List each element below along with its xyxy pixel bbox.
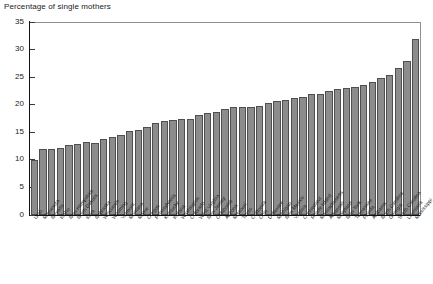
bar [152, 123, 159, 215]
bar [48, 149, 55, 215]
bar [351, 87, 358, 215]
bar [360, 85, 367, 215]
bar [377, 78, 384, 215]
bar [325, 91, 332, 215]
bar [273, 101, 280, 215]
bar [117, 135, 124, 216]
bar [57, 148, 64, 215]
bars-group [30, 22, 420, 215]
bar [100, 139, 107, 215]
bar [334, 89, 341, 215]
bar [178, 119, 185, 215]
bar [265, 103, 272, 215]
y-axis-tick-label: 15 [0, 128, 24, 136]
y-axis-tick-label: 35 [0, 18, 24, 26]
bar [291, 98, 298, 215]
bar [403, 61, 410, 215]
bar [91, 143, 98, 215]
bar [317, 94, 324, 215]
bar [204, 113, 211, 215]
bar [83, 142, 90, 215]
bar [299, 97, 306, 215]
y-axis-tick-label: 20 [0, 100, 24, 108]
y-axis-tick-label: 25 [0, 73, 24, 81]
bar [282, 100, 289, 215]
bar [169, 120, 176, 215]
y-axis-tick-label: 30 [0, 45, 24, 53]
y-axis-tick-label: 0 [0, 211, 24, 219]
bar [195, 115, 202, 215]
bar [239, 107, 246, 215]
bar [126, 131, 133, 215]
y-axis-tick-label: 5 [0, 183, 24, 191]
bar [247, 107, 254, 215]
bar [221, 109, 228, 215]
plot-frame-right [420, 22, 421, 216]
bar [109, 137, 116, 215]
bar [39, 149, 46, 215]
bar [187, 119, 194, 216]
bar [386, 75, 393, 215]
bar [213, 112, 220, 215]
bar [143, 127, 150, 215]
bar [161, 121, 168, 215]
bar [65, 145, 72, 215]
chart-title: Percentage of single mothers [4, 2, 111, 11]
bar [308, 94, 315, 215]
bar [74, 144, 81, 215]
bar [395, 68, 402, 215]
bar [135, 130, 142, 215]
bar [256, 106, 263, 215]
bar [31, 160, 38, 215]
bar [412, 39, 419, 215]
bar [343, 88, 350, 215]
bar [369, 82, 376, 215]
y-axis-tick-label: 10 [0, 155, 24, 163]
bar [230, 107, 237, 215]
x-axis-line [29, 215, 421, 216]
